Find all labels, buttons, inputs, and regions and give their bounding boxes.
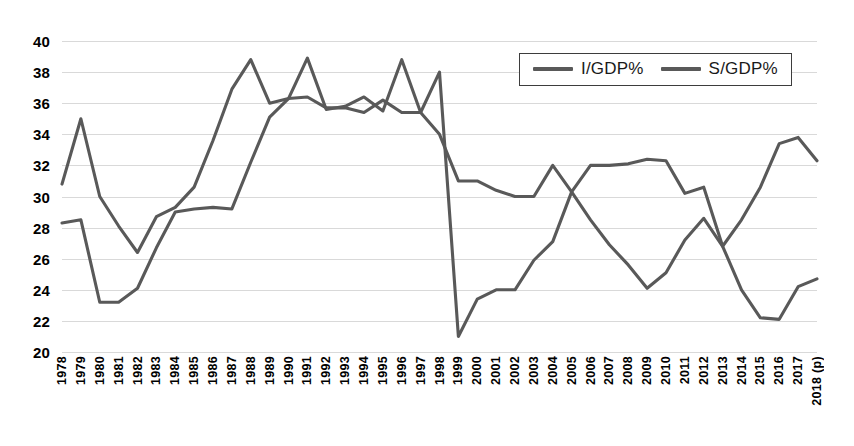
legend-swatch-i-gdp [533, 67, 573, 71]
chart-container: 4038363432302826242220 19781979198019811… [0, 0, 854, 446]
x-axis-tick-label: 2004 [546, 356, 560, 385]
x-axis-tick-label: 1985 [187, 356, 201, 385]
x-axis-tick-label: 2014 [735, 356, 749, 385]
x-axis-tick-label: 1999 [451, 356, 465, 385]
legend-item-i-gdp[interactable]: I/GDP% [533, 59, 644, 79]
x-axis-tick-label: 2005 [565, 356, 579, 385]
x-axis-tick-label: 1992 [319, 356, 333, 385]
gridline [62, 352, 817, 353]
x-axis-tick-label: 2011 [678, 356, 692, 384]
x-axis-tick-label: 1989 [263, 356, 277, 385]
x-axis-tick-label: 2013 [716, 356, 730, 385]
y-axis-tick-label: 20 [4, 344, 50, 361]
x-axis-tick-label: 1994 [357, 356, 371, 385]
chart-legend: I/GDP% S/GDP% [519, 53, 792, 86]
legend-item-s-gdp[interactable]: S/GDP% [661, 59, 778, 79]
x-axis-tick-label: 2010 [659, 356, 673, 385]
x-axis-tick-label: 2016 [772, 356, 786, 385]
x-axis-tick-label: 2008 [621, 356, 635, 385]
x-axis-tick-label: 2012 [697, 356, 711, 385]
y-axis-tick-label: 40 [4, 33, 50, 50]
legend-label-s-gdp: S/GDP% [709, 59, 778, 79]
legend-swatch-s-gdp [661, 67, 701, 71]
y-axis-tick-label: 34 [4, 126, 50, 143]
x-axis-tick-label: 1984 [168, 356, 182, 385]
x-axis-tick-label: 2006 [584, 356, 598, 385]
x-axis-tick-label: 2000 [470, 356, 484, 385]
x-axis-tick-label: 2018 (p) [810, 356, 824, 406]
y-axis-tick-label: 38 [4, 64, 50, 81]
y-axis-tick-label: 26 [4, 250, 50, 267]
x-axis-labels: 1978197919801981198219831984198519861987… [62, 356, 817, 446]
x-axis-tick-label: 1990 [282, 356, 296, 385]
x-axis-tick-label: 1983 [149, 356, 163, 385]
x-axis-tick-label: 1986 [206, 356, 220, 385]
x-axis-tick-label: 1978 [55, 356, 69, 385]
x-axis-tick-label: 2007 [602, 356, 616, 385]
x-axis-tick-label: 2009 [640, 356, 654, 385]
x-axis-tick-label: 2017 [791, 356, 805, 385]
x-axis-tick-label: 1998 [433, 356, 447, 385]
y-axis-tick-label: 22 [4, 312, 50, 329]
x-axis-tick-label: 1988 [244, 356, 258, 385]
series-lines [62, 41, 817, 352]
x-axis-tick-label: 2003 [527, 356, 541, 385]
y-axis-tick-label: 32 [4, 157, 50, 174]
x-axis-tick-label: 1981 [112, 356, 126, 385]
x-axis-tick-label: 1995 [376, 356, 390, 385]
plot-area [62, 41, 817, 352]
y-axis-tick-label: 30 [4, 188, 50, 205]
x-axis-tick-label: 1979 [74, 356, 88, 385]
x-axis-tick-label: 1991 [300, 356, 314, 385]
x-axis-tick-label: 1993 [338, 356, 352, 385]
y-axis-labels: 4038363432302826242220 [0, 41, 50, 352]
y-axis-tick-label: 24 [4, 281, 50, 298]
x-axis-tick-label: 2001 [489, 356, 503, 385]
x-axis-tick-label: 1980 [93, 356, 107, 385]
x-axis-tick-label: 1997 [414, 356, 428, 385]
x-axis-tick-label: 1987 [225, 356, 239, 385]
y-axis-tick-label: 36 [4, 95, 50, 112]
x-axis-tick-label: 1982 [131, 356, 145, 385]
x-axis-tick-label: 1996 [395, 356, 409, 385]
series-line-i-gdp [62, 72, 817, 336]
y-axis-tick-label: 28 [4, 219, 50, 236]
x-axis-tick-label: 2002 [508, 356, 522, 385]
legend-label-i-gdp: I/GDP% [581, 59, 644, 79]
x-axis-tick-label: 2015 [753, 356, 767, 385]
